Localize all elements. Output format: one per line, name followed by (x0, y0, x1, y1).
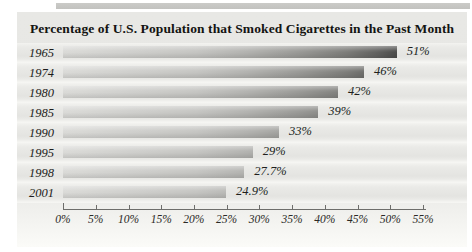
bar-1980 (63, 86, 338, 98)
year-label: 1980 (17, 83, 63, 103)
value-label: 42% (348, 84, 371, 99)
x-axis-tick-label: 20% (183, 213, 204, 225)
bar-row: 1995 29% (17, 143, 467, 163)
bar-row: 2001 24.9% (17, 183, 467, 203)
bar-1990 (63, 126, 279, 138)
chart-title: Percentage of U.S. Population that Smoke… (17, 12, 467, 37)
bar-row: 1998 27.7% (17, 163, 467, 183)
bar-rows: 1965 51% 1974 46% 1980 (17, 43, 467, 203)
value-label: 24.9% (236, 184, 268, 199)
x-axis: 0%5%10%15%20%25%30%35%40%45%50%55% (63, 209, 426, 235)
x-axis-tick (358, 205, 359, 210)
bar-row: 1974 46% (17, 63, 467, 83)
x-axis-tick (227, 205, 228, 210)
x-axis-tick-label: 25% (216, 213, 237, 225)
x-axis-tick (129, 205, 130, 210)
x-axis-tick-label: 10% (118, 213, 139, 225)
year-label: 1998 (17, 163, 63, 183)
x-axis-tick (390, 205, 391, 210)
value-label: 29% (263, 144, 286, 159)
bar-1965 (63, 46, 397, 58)
year-label: 1974 (17, 63, 63, 83)
x-axis-tick (63, 205, 64, 210)
x-axis-tick (325, 205, 326, 210)
x-axis-tick-label: 45% (347, 213, 368, 225)
value-label: 39% (328, 104, 351, 119)
top-edge-strip (56, 3, 470, 9)
year-label: 1985 (17, 103, 63, 123)
bar-track: 51% (63, 43, 467, 63)
value-label: 33% (289, 124, 312, 139)
bar-track: 39% (63, 103, 467, 123)
x-axis-tick-label: 55% (412, 213, 433, 225)
year-label: 1995 (17, 143, 63, 163)
value-label: 46% (374, 64, 397, 79)
chart-panel: Percentage of U.S. Population that Smoke… (17, 12, 467, 247)
x-axis-tick-label: 0% (55, 213, 70, 225)
bar-row: 1990 33% (17, 123, 467, 143)
x-axis-tick (423, 205, 424, 210)
value-label: 27.7% (254, 164, 286, 179)
bar-track: 29% (63, 143, 467, 163)
x-axis-tick-label: 15% (151, 213, 172, 225)
x-axis-tick (292, 205, 293, 210)
bar-track: 33% (63, 123, 467, 143)
figure: Percentage of U.S. Population that Smoke… (0, 0, 472, 252)
bar-chart: 1965 51% 1974 46% 1980 (17, 43, 467, 235)
x-axis-tick-label: 5% (88, 213, 103, 225)
x-axis-tick (96, 205, 97, 210)
bar-2001 (63, 186, 226, 198)
x-axis-tick (259, 205, 260, 210)
bar-track: 42% (63, 83, 467, 103)
bar-1995 (63, 146, 253, 158)
bar-track: 27.7% (63, 163, 467, 183)
x-axis-tick (194, 205, 195, 210)
x-axis-tick-label: 40% (314, 213, 335, 225)
bar-track: 24.9% (63, 183, 467, 203)
bar-1998 (63, 166, 244, 178)
x-axis-tick-label: 50% (380, 213, 401, 225)
bar-1985 (63, 106, 318, 118)
bar-row: 1965 51% (17, 43, 467, 63)
x-axis-tick-label: 30% (249, 213, 270, 225)
bar-row: 1985 39% (17, 103, 467, 123)
bar-1974 (63, 66, 364, 78)
year-label: 1965 (17, 43, 63, 63)
bar-row: 1980 42% (17, 83, 467, 103)
x-axis-tick-label: 35% (282, 213, 303, 225)
x-axis-tick (161, 205, 162, 210)
year-label: 1990 (17, 123, 63, 143)
value-label: 51% (407, 44, 430, 59)
year-label: 2001 (17, 183, 63, 203)
bar-track: 46% (63, 63, 467, 83)
